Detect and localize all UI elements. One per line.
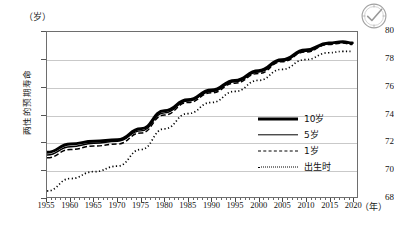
x-tick-label: 1960 [61, 200, 78, 210]
x-tick-label: 1985 [179, 200, 196, 210]
y-tick-label: 74 [354, 109, 394, 119]
chart-legend: 10岁5岁1岁出生时 [258, 113, 331, 172]
y-axis-unit: （岁） [24, 10, 51, 23]
x-tick-label: 2015 [321, 200, 338, 210]
y-tick-label: 78 [354, 53, 394, 63]
x-tick-label: 2010 [298, 200, 315, 210]
x-tick-label: 1995 [227, 200, 244, 210]
y-tick-label: 72 [354, 136, 394, 146]
legend-item: 出生时 [258, 161, 331, 172]
legend-item: 5岁 [258, 129, 331, 140]
x-tick-label: 1990 [203, 200, 220, 210]
legend-label: 10岁 [304, 112, 324, 125]
legend-label: 1岁 [304, 144, 319, 157]
x-tick-label: 1980 [156, 200, 173, 210]
x-tick-label: 2000 [250, 200, 267, 210]
legend-swatch-solid-thin [258, 131, 298, 139]
x-tick-label: 1970 [108, 200, 125, 210]
x-tick-label: 1975 [132, 200, 149, 210]
x-axis-labels: 1955196019651970197519801985199019952000… [46, 200, 358, 214]
y-axis-title: 两性的预期寿命 [20, 54, 32, 150]
legend-label: 5岁 [304, 128, 319, 141]
legend-item: 1岁 [258, 145, 331, 156]
legend-label: 出生时 [304, 160, 331, 173]
y-tick-label: 80 [354, 25, 394, 35]
legend-swatch-dotted [258, 163, 298, 171]
legend-swatch-solid-thick [258, 115, 298, 123]
y-tick-label: 70 [354, 164, 394, 174]
legend-swatch-dashed [258, 147, 298, 155]
x-tick-label: 1955 [38, 200, 55, 210]
x-tick-label: 1965 [85, 200, 102, 210]
y-tick-label: 76 [354, 81, 394, 91]
x-tick-label: 2005 [274, 200, 291, 210]
legend-item: 10岁 [258, 113, 331, 124]
x-tick-label: 2020 [345, 200, 362, 210]
chart-page: （岁） （年） 两性的预期寿命 68707274767880 195519601… [0, 0, 394, 238]
